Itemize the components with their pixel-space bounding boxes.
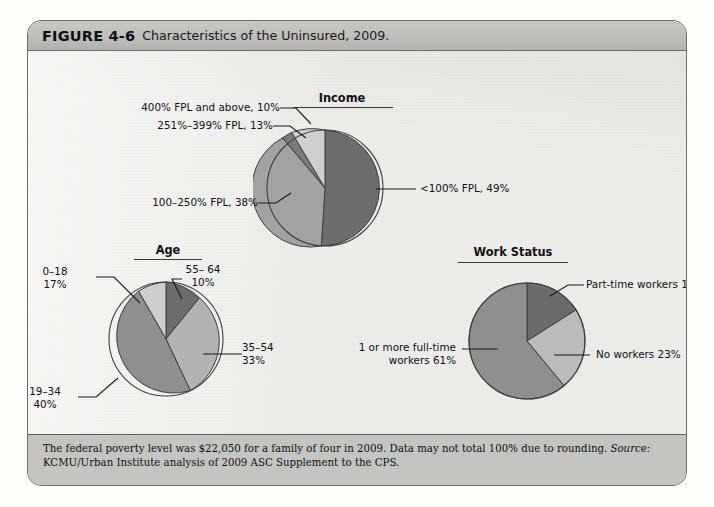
footnote-source-label: Source: bbox=[610, 443, 650, 454]
figure-footnote-text: The federal poverty level was $22,050 fo… bbox=[43, 442, 671, 470]
chart-age: Age bbox=[28, 241, 368, 421]
chart-work-label-fulltime-line2: workers 61% bbox=[244, 354, 456, 367]
chart-age-label-19-34-range: 19–34 bbox=[27, 385, 90, 398]
chart-age-label-0-18-range: 0–18 bbox=[27, 265, 100, 278]
figure-caption: Characteristics of the Uninsured, 2009. bbox=[142, 28, 389, 43]
chart-work-leaders bbox=[358, 251, 687, 421]
chart-work-status: Work Status bbox=[358, 241, 687, 421]
chart-age-label-55-64: 55– 64 10% bbox=[158, 263, 248, 288]
chart-income: Income bbox=[28, 51, 687, 241]
chart-age-label-19-34: 19–34 40% bbox=[27, 385, 90, 410]
chart-work-label-noworkers: No workers 23% bbox=[596, 348, 687, 361]
figure-frame: FIGURE 4-6 Characteristics of the Uninsu… bbox=[27, 20, 687, 486]
figure-number: FIGURE 4-6 bbox=[42, 28, 135, 44]
figure-footnote: The federal poverty level was $22,050 fo… bbox=[28, 434, 686, 485]
footnote-part1: The federal poverty level was $22,050 fo… bbox=[43, 443, 610, 454]
chart-age-label-55-64-pct: 10% bbox=[158, 276, 248, 289]
chart-age-label-0-18: 0–18 17% bbox=[27, 265, 100, 290]
chart-work-label-fulltime-line1: 1 or more full-time bbox=[244, 341, 456, 354]
chart-income-label-100fpl: 100–250% FPL, 38% bbox=[38, 196, 258, 209]
chart-work-label-fulltime: 1 or more full-time workers 61% bbox=[244, 341, 456, 366]
figure-body: Income bbox=[28, 51, 686, 436]
figure-page: FIGURE 4-6 Characteristics of the Uninsu… bbox=[0, 0, 714, 507]
footnote-part2: KCMU/Urban Institute analysis of 2009 AS… bbox=[43, 457, 399, 468]
chart-income-label-400fpl: 400% FPL and above, 10% bbox=[60, 101, 280, 114]
chart-age-label-19-34-pct: 40% bbox=[27, 398, 90, 411]
chart-income-label-under100fpl: <100% FPL, 49% bbox=[420, 182, 600, 195]
chart-age-label-55-64-range: 55– 64 bbox=[158, 263, 248, 276]
chart-work-label-parttime: Part-time workers 16% bbox=[586, 278, 687, 291]
chart-age-label-0-18-pct: 17% bbox=[27, 278, 100, 291]
chart-income-label-251fpl: 251%–399% FPL, 13% bbox=[53, 119, 273, 132]
figure-header: FIGURE 4-6 Characteristics of the Uninsu… bbox=[28, 21, 686, 51]
